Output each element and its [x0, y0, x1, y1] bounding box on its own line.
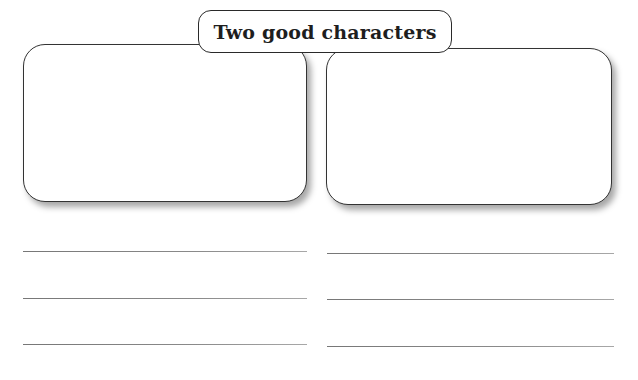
- writing-line-left-2[interactable]: [23, 298, 307, 299]
- character-box-right[interactable]: [326, 48, 612, 205]
- writing-line-right-3[interactable]: [327, 346, 614, 347]
- writing-line-left-1[interactable]: [23, 251, 307, 252]
- character-box-left[interactable]: [23, 44, 307, 202]
- writing-line-right-1[interactable]: [327, 253, 614, 254]
- page-title: Two good characters: [213, 21, 436, 43]
- writing-line-right-2[interactable]: [327, 299, 614, 300]
- title-banner: Two good characters: [198, 10, 452, 53]
- writing-line-left-3[interactable]: [23, 344, 307, 345]
